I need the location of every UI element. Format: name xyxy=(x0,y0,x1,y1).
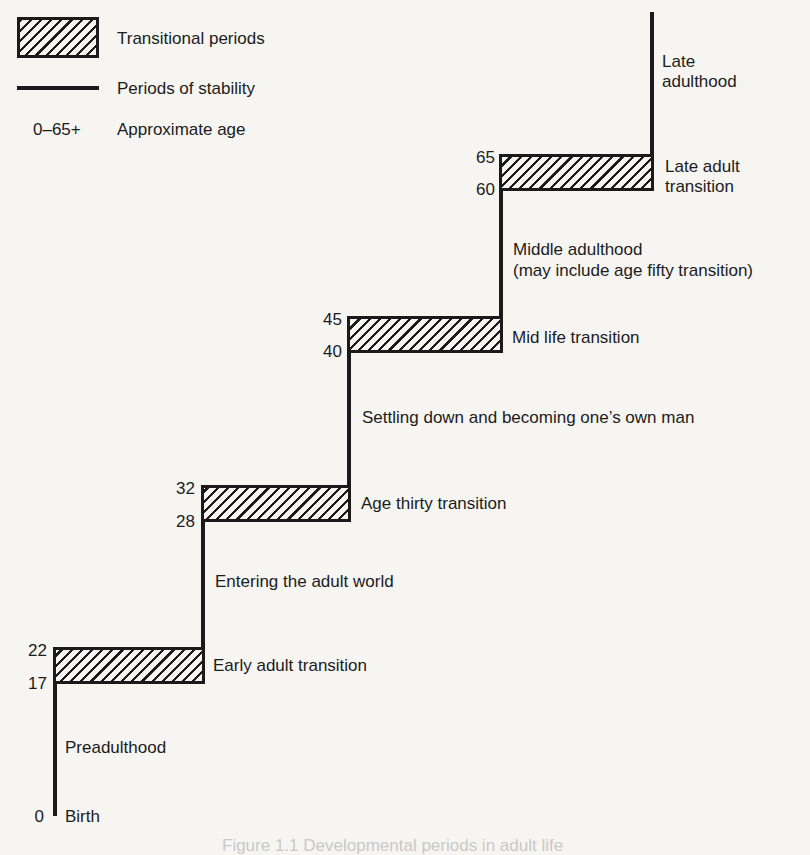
stability-label-late-adulthood-line1: Late xyxy=(662,52,695,71)
stability-label-late-adulthood-line2: adulthood xyxy=(662,72,737,91)
stability-label-preadulthood: Preadulthood xyxy=(65,738,166,757)
stability-line-late-adulthood xyxy=(650,12,654,157)
age-tick-32: 32 xyxy=(165,479,195,498)
stability-label-middle-adulthood: Middle adulthood xyxy=(513,240,642,259)
age-tick-17: 17 xyxy=(17,674,47,693)
legend-transitional-swatch xyxy=(17,17,99,58)
stability-line-settling-down xyxy=(347,350,351,488)
legend-age-range: 0–65+ xyxy=(33,120,81,139)
age-tick-28: 28 xyxy=(165,512,195,531)
stability-note-middle-adulthood: (may include age fifty transition) xyxy=(513,261,753,280)
age-tick-60: 60 xyxy=(465,180,495,199)
birth-label: Birth xyxy=(65,807,100,826)
transition-box-early-adult xyxy=(53,647,205,684)
age-tick-45: 45 xyxy=(312,310,342,329)
legend-age-label: Approximate age xyxy=(117,120,246,139)
stability-label-entering-adult-world: Entering the adult world xyxy=(215,572,394,591)
age-tick-0: 0 xyxy=(14,807,44,826)
stability-label-settling-down: Settling down and becoming one’s own man xyxy=(362,408,694,427)
transition-label-mid-life: Mid life transition xyxy=(512,328,640,347)
stability-line-entering-adult-world xyxy=(201,518,205,650)
transition-label-late-adult-line1: Late adult xyxy=(665,157,740,176)
age-tick-22: 22 xyxy=(17,641,47,660)
transition-label-late-adult-line2: transition xyxy=(665,177,734,196)
age-tick-65: 65 xyxy=(465,148,495,167)
stability-line-preadulthood xyxy=(53,680,57,816)
legend-transitional-label: Transitional periods xyxy=(117,29,265,48)
transition-box-mid-life xyxy=(347,316,503,353)
legend-stability-label: Periods of stability xyxy=(117,79,255,98)
legend-stability-line xyxy=(17,86,99,90)
transition-label-age-thirty: Age thirty transition xyxy=(361,494,507,513)
transition-label-early-adult: Early adult transition xyxy=(213,656,367,675)
transition-box-late-adult xyxy=(499,154,654,191)
age-tick-40: 40 xyxy=(312,342,342,361)
transition-box-age-thirty xyxy=(201,485,351,522)
figure-caption: Figure 1.1 Developmental periods in adul… xyxy=(222,836,563,855)
stability-line-middle-adulthood xyxy=(499,188,503,319)
